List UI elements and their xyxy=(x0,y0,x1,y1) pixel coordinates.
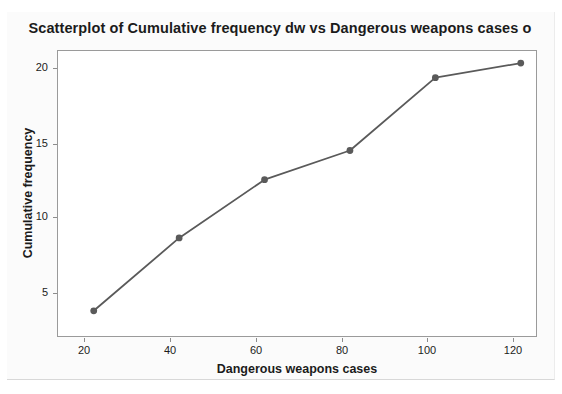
x-tick-label-20: 20 xyxy=(64,344,104,356)
x-tick-label-100: 100 xyxy=(407,344,447,356)
plot-area xyxy=(57,50,537,337)
y-tick-mark-10 xyxy=(53,217,57,218)
data-point xyxy=(432,74,439,81)
data-point xyxy=(347,147,354,154)
x-axis-label: Dangerous weapons cases xyxy=(57,362,537,376)
x-tick-mark-120 xyxy=(513,338,514,342)
chart-page: Scatterplot of Cumulative frequency dw v… xyxy=(0,0,562,394)
y-tick-label-20: 20 xyxy=(18,61,48,73)
x-tick-mark-40 xyxy=(170,338,171,342)
y-tick-mark-15 xyxy=(53,144,57,145)
x-tick-mark-20 xyxy=(84,338,85,342)
x-tick-label-120: 120 xyxy=(493,344,533,356)
y-tick-mark-5 xyxy=(53,293,57,294)
y-tick-label-5: 5 xyxy=(18,286,48,298)
data-point xyxy=(261,176,268,183)
y-axis-label: Cumulative frequency xyxy=(21,103,35,283)
data-point xyxy=(176,235,183,242)
series-markers xyxy=(90,60,524,314)
chart-title: Scatterplot of Cumulative frequency dw v… xyxy=(20,20,540,36)
data-point xyxy=(90,307,97,314)
x-tick-mark-80 xyxy=(342,338,343,342)
x-tick-mark-100 xyxy=(427,338,428,342)
data-point xyxy=(517,60,524,67)
y-tick-mark-20 xyxy=(53,68,57,69)
series-line xyxy=(94,63,521,311)
x-tick-mark-60 xyxy=(256,338,257,342)
x-tick-label-60: 60 xyxy=(236,344,276,356)
x-tick-label-80: 80 xyxy=(322,344,362,356)
x-tick-label-40: 40 xyxy=(150,344,190,356)
